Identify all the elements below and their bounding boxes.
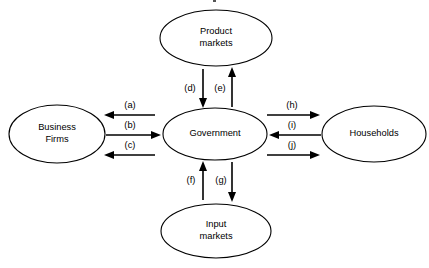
edge-c[interactable]: (c)	[104, 140, 155, 159]
edge-f-label: (f)	[187, 175, 196, 185]
edge-c-label: (c)	[125, 140, 136, 150]
edge-b-label: (b)	[124, 120, 135, 130]
edge-h-arrowhead	[310, 111, 320, 119]
node-input-markets[interactable]: Input markets	[161, 204, 271, 258]
edge-g-arrowhead	[228, 192, 236, 202]
edge-i-arrowhead	[269, 131, 279, 139]
government-label: Government	[189, 128, 241, 138]
node-government[interactable]: Government	[163, 108, 267, 160]
node-product-markets[interactable]: Product markets	[160, 10, 272, 66]
edge-c-arrowhead	[104, 151, 114, 159]
edge-e-label: (e)	[214, 83, 225, 93]
scan-artifact-speck	[213, 0, 216, 2]
edge-f[interactable]: (f)	[187, 161, 207, 200]
product-markets-label-line1: Product	[200, 26, 232, 36]
product-markets-label-line2: markets	[199, 38, 232, 48]
edge-a-arrowhead	[104, 111, 114, 119]
edge-g-label: (g)	[215, 175, 226, 185]
input-markets-label-line2: markets	[199, 231, 232, 241]
edge-i-label: (i)	[288, 120, 296, 130]
node-business-firms[interactable]: Business Firms	[9, 105, 105, 163]
edge-d-arrowhead	[199, 98, 207, 108]
edge-a-label: (a)	[124, 100, 135, 110]
edge-j-arrowhead	[310, 151, 320, 159]
edge-g[interactable]: (g)	[215, 162, 236, 202]
edge-j-label: (j)	[288, 140, 296, 150]
edge-h[interactable]: (h)	[267, 100, 320, 119]
edge-h-label: (h)	[286, 100, 297, 110]
edge-e-arrowhead	[228, 67, 236, 77]
edge-f-arrowhead	[199, 161, 207, 171]
input-markets-label-line1: Input	[206, 219, 227, 229]
edge-a[interactable]: (a)	[104, 100, 155, 119]
edge-b[interactable]: (b)	[106, 120, 161, 139]
diagram-canvas: Product markets Business Firms Governmen…	[0, 0, 429, 268]
edge-d-label: (d)	[184, 83, 195, 93]
edge-b-arrowhead	[151, 131, 161, 139]
business-firms-label-line2: Firms	[45, 134, 69, 144]
node-households[interactable]: Households	[322, 106, 426, 162]
edge-j[interactable]: (j)	[267, 140, 320, 159]
circular-flow-diagram: Product markets Business Firms Governmen…	[0, 0, 429, 268]
households-label: Households	[349, 128, 398, 138]
edge-e[interactable]: (e)	[214, 67, 236, 107]
edge-i[interactable]: (i)	[269, 120, 321, 139]
edge-d[interactable]: (d)	[184, 69, 207, 108]
business-firms-label-line1: Business	[38, 122, 76, 132]
